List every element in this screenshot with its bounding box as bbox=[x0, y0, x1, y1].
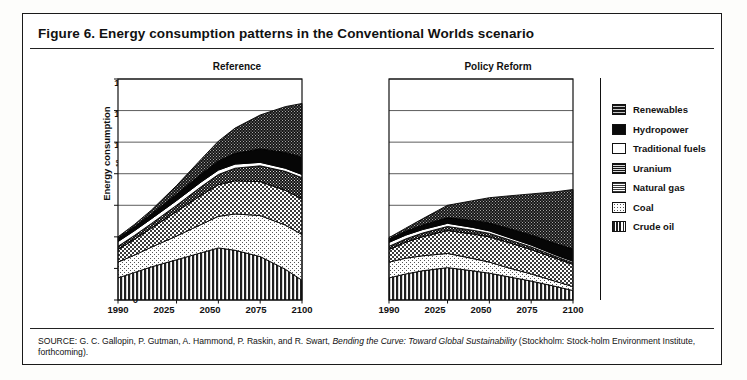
figure-root: Figure 6. Energy consumption patterns in… bbox=[0, 0, 747, 380]
legend-item-traditional-fuels: Traditional fuels bbox=[612, 139, 732, 159]
source-note: SOURCE: G. C. Gallopin, P. Gutman, A. Ha… bbox=[38, 336, 710, 359]
x-tick-right-2075: 2075 bbox=[505, 304, 549, 315]
x-tick-left-2025: 2025 bbox=[142, 304, 186, 315]
natural-gas-swatch-icon bbox=[612, 182, 626, 193]
legend-label-crude-oil: Crude oil bbox=[633, 221, 674, 232]
chart-reference-plot bbox=[114, 79, 302, 304]
x-tick-left-2100: 2100 bbox=[280, 304, 324, 315]
legend-item-hydropower: Hydropower bbox=[612, 120, 732, 140]
renewables-swatch-icon bbox=[612, 104, 626, 115]
x-tick-left-2050: 2050 bbox=[188, 304, 232, 315]
uranium-swatch-icon bbox=[612, 163, 626, 174]
legend-divider bbox=[600, 78, 601, 300]
x-tick-right-2050: 2050 bbox=[459, 304, 503, 315]
x-tick-left-1990: 1990 bbox=[96, 304, 140, 315]
legend-label-natural-gas: Natural gas bbox=[633, 182, 685, 193]
source-text-part2: (Stockholm: Stock- bbox=[516, 336, 591, 346]
legend-item-uranium: Uranium bbox=[612, 159, 732, 179]
legend-item-coal: Coal bbox=[612, 198, 732, 218]
legend-label-uranium: Uranium bbox=[633, 163, 672, 174]
legend-item-renewables: Renewables bbox=[612, 100, 732, 120]
legend-label-traditional-fuels: Traditional fuels bbox=[633, 143, 706, 154]
coal-swatch-icon bbox=[612, 202, 626, 213]
source-text-italic: Bending the Curve: Toward Global Sustain… bbox=[332, 336, 516, 346]
x-tick-left-2075: 2075 bbox=[234, 304, 278, 315]
source-text-part1: SOURCE: G. C. Gallopin, P. Gutman, A. Ha… bbox=[38, 336, 332, 346]
legend-label-renewables: Renewables bbox=[633, 104, 688, 115]
legend-item-crude-oil: Crude oil bbox=[612, 217, 732, 237]
x-tick-right-1990: 1990 bbox=[367, 304, 411, 315]
legend-label-coal: Coal bbox=[633, 202, 654, 213]
chart-policy-reform-plot bbox=[389, 79, 573, 304]
x-tick-right-2025: 2025 bbox=[413, 304, 457, 315]
legend: Renewables Hydropower Traditional fuels … bbox=[612, 100, 732, 237]
hydropower-swatch-icon bbox=[612, 124, 626, 135]
crude-oil-swatch-icon bbox=[612, 221, 626, 232]
legend-item-natural-gas: Natural gas bbox=[612, 178, 732, 198]
x-tick-right-2100: 2100 bbox=[551, 304, 595, 315]
traditional-fuels-swatch-icon bbox=[612, 143, 626, 154]
legend-label-hydropower: Hydropower bbox=[633, 124, 688, 135]
